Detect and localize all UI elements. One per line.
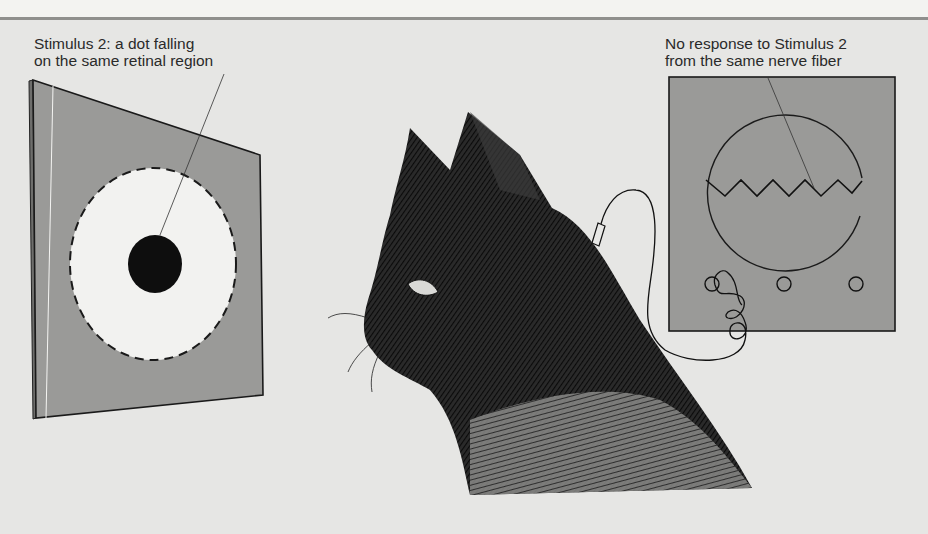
black-dot-stimulus xyxy=(128,235,182,293)
diagram-canvas xyxy=(0,0,928,534)
electrode xyxy=(592,223,605,246)
oscilloscope xyxy=(669,77,895,331)
